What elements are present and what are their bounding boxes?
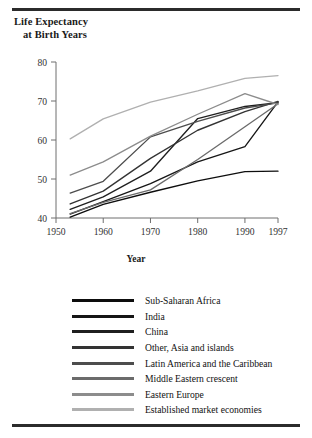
x-axis-tick-label: 1970 <box>141 226 160 237</box>
legend-item: Established market economies <box>72 402 312 418</box>
x-axis-label: Year <box>127 254 186 264</box>
legend-item-label: Middle Eastern crescent <box>145 373 238 384</box>
x-axis-tick-label: 1960 <box>94 226 113 237</box>
y-axis-tick-label: 40 <box>37 213 47 224</box>
legend-item-label: Latin America and the Caribbean <box>145 358 272 369</box>
legend-color-swatch <box>72 299 134 302</box>
legend-color-swatch <box>72 315 134 318</box>
legend-item: China <box>72 324 312 340</box>
legend-color-swatch <box>72 377 134 380</box>
y-axis-tick-label: 70 <box>37 96 47 107</box>
series-line <box>70 101 278 204</box>
legend-item-label: Other, Asia and islands <box>145 342 234 353</box>
y-axis-tick-label: 80 <box>37 57 47 68</box>
legend-item-label: Sub-Saharan Africa <box>145 295 220 306</box>
legend-item-label: India <box>145 311 165 322</box>
legend-item: Middle Eastern crescent <box>72 371 312 387</box>
line-chart-svg: 4050607080 195019601970198019901997 <box>0 46 312 261</box>
chart-axes <box>56 62 278 218</box>
legend-item-label: Eastern Europe <box>145 389 204 400</box>
top-divider-rule <box>12 8 300 11</box>
chart-legend: Sub-Saharan AfricaIndiaChinaOther, Asia … <box>72 293 312 418</box>
chart-title-line-1: Life Expectancy <box>14 16 88 27</box>
bottom-divider-rule <box>12 424 300 427</box>
y-axis-tick-label: 60 <box>37 135 47 146</box>
x-axis-tick-label: 1980 <box>188 226 207 237</box>
legend-color-swatch <box>72 362 134 365</box>
legend-color-swatch <box>72 330 134 333</box>
line-chart-plot: 4050607080 195019601970198019901997 <box>0 46 312 261</box>
series-line <box>70 171 278 217</box>
x-axis-tick-label: 1990 <box>235 226 254 237</box>
chart-series-lines <box>70 76 278 218</box>
x-axis-ticks: 195019601970198019901997 <box>46 218 287 237</box>
legend-item: Other, Asia and islands <box>72 340 312 356</box>
legend-item: Eastern Europe <box>72 387 312 403</box>
series-line <box>70 103 278 210</box>
legend-item-label: China <box>145 326 168 337</box>
legend-item: Latin America and the Caribbean <box>72 355 312 371</box>
x-axis-label-wrap: Year <box>0 254 312 264</box>
x-axis-tick-label: 1950 <box>46 226 65 237</box>
legend-color-swatch <box>72 346 134 349</box>
y-axis-ticks: 4050607080 <box>37 57 56 224</box>
legend-item-label: Established market economies <box>145 404 262 415</box>
legend-item: Sub-Saharan Africa <box>72 293 312 309</box>
y-axis-tick-label: 50 <box>37 174 47 185</box>
chart-title-line-2: at Birth Years <box>14 29 88 42</box>
legend-item: India <box>72 309 312 325</box>
legend-color-swatch <box>72 408 134 411</box>
legend-color-swatch <box>72 393 134 396</box>
x-axis-tick-label: 1997 <box>268 226 287 237</box>
series-line <box>70 103 278 193</box>
chart-title: Life Expectancy at Birth Years <box>14 16 88 41</box>
